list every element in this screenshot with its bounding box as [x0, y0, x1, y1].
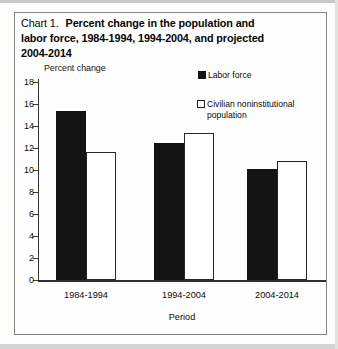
scan-edge-bottom	[0, 344, 338, 349]
x-tick-label: 1994-2004	[139, 290, 229, 300]
figure-number: Chart 1.	[21, 17, 59, 29]
bar-civilian-noninstitutional-population-2004-2014	[277, 161, 307, 280]
bar-labor-force-2004-2014	[247, 169, 277, 280]
scan-edge-top	[0, 0, 338, 3]
title-line-2: labor force, 1984-1994, 1994-2004, and p…	[21, 31, 323, 46]
legend-item-labor-force: Labor force	[198, 70, 251, 81]
x-axis-title: Period	[137, 312, 227, 322]
legend-swatch-labor-force-icon	[198, 71, 206, 79]
x-axis-line	[38, 280, 326, 282]
y-tick-label: 12	[17, 143, 34, 154]
y-tick-label: 16	[17, 99, 34, 110]
y-tick-label: 0	[17, 275, 34, 286]
legend-item-population: Civilian noninstitutional population	[197, 99, 321, 120]
bar-civilian-noninstitutional-population-1994-2004	[184, 133, 214, 280]
x-tick-label: 2004-2014	[232, 290, 322, 300]
y-axis-title: Percent change	[44, 63, 106, 73]
x-tick-label: 1984-1994	[41, 290, 131, 300]
bar-civilian-noninstitutional-population-1984-1994	[86, 152, 116, 280]
chart-frame: Chart 1.Percent change in the population…	[14, 12, 327, 335]
y-tick-label: 4	[17, 231, 34, 242]
y-tick-label: 6	[17, 209, 34, 220]
title-line-3: 2004-2014	[21, 46, 323, 61]
bar-labor-force-1984-1994	[56, 111, 86, 280]
y-tick-label: 18	[17, 77, 34, 88]
title-line-1: Chart 1.Percent change in the population…	[21, 16, 323, 31]
page-background: Chart 1.Percent change in the population…	[0, 0, 338, 349]
y-tick-label: 14	[17, 121, 34, 132]
legend-label-population: Civilian noninstitutional population	[207, 99, 321, 120]
title-text: Percent change in the population and	[66, 17, 255, 29]
y-tick-label: 8	[17, 187, 34, 198]
legend-swatch-population-icon	[197, 100, 205, 108]
legend-label-labor-force: Labor force	[208, 70, 251, 81]
chart-title: Chart 1.Percent change in the population…	[21, 16, 323, 61]
y-tick-label: 10	[17, 165, 34, 176]
bar-labor-force-1994-2004	[154, 143, 184, 281]
y-axis-line	[38, 79, 39, 282]
y-tick-label: 2	[17, 253, 34, 264]
